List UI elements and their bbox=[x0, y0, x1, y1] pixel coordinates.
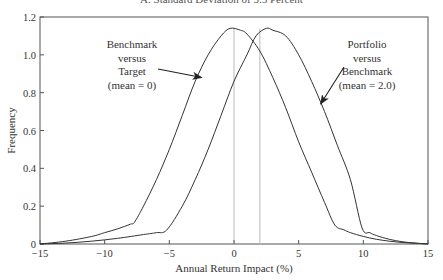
y-tick-label: 0.6 bbox=[23, 126, 36, 137]
y-tick-label: 0.4 bbox=[23, 163, 37, 174]
x-tick-label: −10 bbox=[96, 248, 112, 259]
annotation-text: (mean = 0) bbox=[108, 79, 157, 92]
annotation-text: Portfolio bbox=[347, 38, 387, 50]
annotation-text: Benchmark bbox=[107, 38, 158, 50]
annotation-text: (mean = 2.0) bbox=[339, 79, 396, 92]
x-tick-label: −5 bbox=[164, 248, 175, 259]
y-tick-label: 0.2 bbox=[23, 201, 36, 212]
annotation-text: Benchmark bbox=[342, 65, 393, 77]
annotation-text: versus bbox=[118, 52, 146, 64]
annotation-arrow bbox=[158, 69, 202, 78]
y-tick-label: 1.0 bbox=[23, 50, 36, 61]
annotation-text: versus bbox=[353, 52, 381, 64]
y-axis-label: Frequency bbox=[5, 107, 17, 154]
y-tick-label: 0.8 bbox=[23, 88, 36, 99]
x-axis-label: Annual Return Impact (%) bbox=[175, 262, 293, 275]
y-tick-label: 0 bbox=[31, 239, 36, 250]
annotation-text: Target bbox=[118, 65, 146, 77]
x-tick-label: 10 bbox=[358, 248, 369, 259]
y-tick-label: 1.2 bbox=[23, 12, 36, 23]
chart-plot: −15−10−505101500.20.40.60.81.01.2Annual … bbox=[0, 0, 443, 280]
x-tick-label: 15 bbox=[423, 248, 434, 259]
x-tick-label: 0 bbox=[231, 248, 236, 259]
x-tick-label: 5 bbox=[296, 248, 301, 259]
